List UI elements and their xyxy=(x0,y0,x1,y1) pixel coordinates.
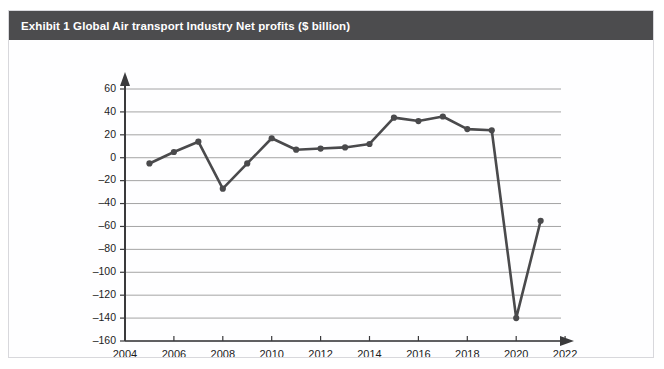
y-tick-label: –60 xyxy=(98,219,116,231)
x-tick-label: 2008 xyxy=(211,348,235,357)
data-point xyxy=(269,135,275,141)
x-tick-label: 2004 xyxy=(113,348,137,357)
data-point xyxy=(489,127,495,133)
x-tick-label: 2016 xyxy=(406,348,430,357)
data-point xyxy=(513,315,519,321)
data-point xyxy=(146,160,152,166)
x-tick-label: 2014 xyxy=(357,348,381,357)
x-axis-tick-labels: 2004200620082010201220142016201820202022 xyxy=(113,348,578,357)
data-point xyxy=(342,144,348,150)
data-point xyxy=(293,147,299,153)
x-tick-label: 2022 xyxy=(553,348,577,357)
y-tick-label: –100 xyxy=(93,265,117,277)
y-axis-tick-labels: 6040200–20–40–60–80–100–120–140–160 xyxy=(93,82,117,346)
data-point-markers xyxy=(146,113,543,321)
y-tick-label: 0 xyxy=(110,151,116,163)
y-tick-label: 60 xyxy=(104,82,116,94)
x-tick-label: 2012 xyxy=(308,348,332,357)
data-point xyxy=(220,186,226,192)
y-tick-label: –40 xyxy=(98,196,116,208)
data-point xyxy=(415,118,421,124)
data-point xyxy=(195,139,201,145)
data-point xyxy=(538,218,544,224)
data-point xyxy=(391,115,397,121)
data-point xyxy=(318,145,324,151)
data-point xyxy=(440,113,446,119)
data-point xyxy=(171,149,177,155)
y-tick-label: –20 xyxy=(98,173,116,185)
y-tick-label: –80 xyxy=(98,242,116,254)
chart-plot-area: 6040200–20–40–60–80–100–120–140–160 2004… xyxy=(9,40,653,357)
y-tick-label: –140 xyxy=(93,311,117,323)
x-axis-arrowhead xyxy=(560,336,574,346)
y-tick-label: –120 xyxy=(93,288,117,300)
exhibit-title: Exhibit 1 Global Air transport Industry … xyxy=(9,20,350,32)
x-tick-label: 2010 xyxy=(259,348,283,357)
x-tick-label: 2020 xyxy=(504,348,528,357)
x-tick-label: 2006 xyxy=(162,348,186,357)
data-point xyxy=(464,126,470,132)
data-point xyxy=(366,141,372,147)
exhibit-header-bar: Exhibit 1 Global Air transport Industry … xyxy=(9,11,653,40)
y-tick-label: –160 xyxy=(93,334,117,346)
y-tick-label: 20 xyxy=(104,128,116,140)
data-point xyxy=(244,160,250,166)
y-tick-label: 40 xyxy=(104,105,116,117)
exhibit-frame: Exhibit 1 Global Air transport Industry … xyxy=(8,10,654,358)
line-chart: 6040200–20–40–60–80–100–120–140–160 2004… xyxy=(9,40,653,357)
y-gridlines xyxy=(125,89,561,341)
y-axis-arrowhead xyxy=(120,72,130,86)
x-tick-label: 2018 xyxy=(455,348,479,357)
